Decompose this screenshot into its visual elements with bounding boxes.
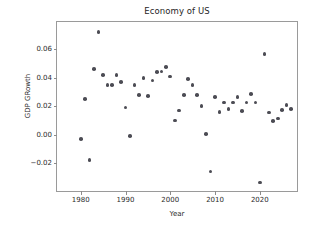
scatter-point	[258, 181, 262, 185]
scatter-point	[276, 117, 280, 121]
scatter-point	[267, 111, 271, 115]
scatter-point	[128, 134, 132, 138]
y-axis-tick-label: 0.02	[36, 102, 52, 110]
scatter-point	[168, 75, 172, 79]
y-axis-tick	[54, 135, 58, 136]
scatter-point	[79, 137, 83, 141]
scatter-point	[177, 109, 181, 113]
x-axis-tick-label: 2020	[251, 196, 269, 204]
scatter-point	[106, 83, 110, 87]
scatter-point	[231, 101, 235, 105]
y-axis-tick-label: 0.00	[36, 131, 52, 139]
scatter-point	[200, 104, 204, 108]
scatter-point	[204, 132, 208, 136]
y-axis-tick	[54, 78, 58, 79]
x-axis-tick	[215, 191, 216, 195]
scatter-point	[133, 83, 137, 87]
y-axis-tick-label: 0.06	[36, 45, 52, 53]
y-axis-tick-label: −0.02	[31, 159, 52, 167]
scatter-point	[182, 93, 186, 97]
scatter-point	[271, 119, 275, 123]
scatter-point	[110, 83, 114, 87]
y-axis-tick	[54, 163, 58, 164]
x-axis-label: Year	[56, 210, 298, 218]
scatter-point	[124, 106, 128, 110]
scatter-point	[222, 101, 226, 105]
scatter-point	[285, 103, 289, 107]
scatter-point	[155, 70, 159, 74]
x-axis-tick-label: 2010	[206, 196, 224, 204]
scatter-point	[218, 110, 222, 114]
scatter-point	[160, 70, 164, 74]
scatter-point	[280, 108, 284, 112]
scatter-point	[263, 52, 267, 56]
scatter-point	[146, 94, 150, 98]
y-axis-tick	[54, 49, 58, 50]
scatter-point	[137, 93, 141, 97]
x-axis-tick	[260, 191, 261, 195]
x-axis-tick-label: 1990	[117, 196, 135, 204]
scatter-point	[119, 80, 123, 84]
scatter-point	[164, 65, 168, 69]
scatter-point	[249, 92, 253, 96]
page-title: Economy of US	[56, 6, 298, 16]
scatter-point	[289, 107, 293, 111]
scatter-point	[173, 119, 177, 123]
scatter-point	[142, 76, 146, 80]
scatter-point	[236, 95, 240, 99]
scatter-point	[97, 30, 101, 34]
scatter-point	[83, 97, 87, 101]
scatter-point	[227, 107, 231, 111]
x-axis-tick-label: 1980	[72, 196, 90, 204]
y-axis-label: GDP GRowth	[24, 74, 32, 118]
x-axis-tick	[170, 191, 171, 195]
scatter-point	[240, 109, 244, 113]
scatter-point	[186, 77, 190, 81]
scatter-point	[245, 101, 249, 105]
scatter-point	[213, 95, 217, 99]
figure-canvas: Economy of US GDP GRowth −0.020.000.020.…	[0, 0, 316, 228]
scatter-point	[209, 170, 213, 174]
scatter-points-layer	[57, 22, 297, 191]
scatter-point	[101, 73, 105, 77]
plot-area: −0.020.000.020.040.061980199020002010202…	[56, 21, 298, 192]
x-axis-tick	[126, 191, 127, 195]
x-axis-tick-label: 2000	[161, 196, 179, 204]
scatter-point	[254, 101, 258, 105]
scatter-point	[88, 158, 92, 162]
scatter-point	[115, 73, 119, 77]
scatter-point	[195, 93, 199, 97]
y-axis-tick	[54, 106, 58, 107]
x-axis-tick	[81, 191, 82, 195]
scatter-point	[191, 83, 195, 87]
scatter-point	[151, 79, 155, 83]
scatter-point	[92, 67, 96, 71]
y-axis-tick-label: 0.04	[36, 74, 52, 82]
